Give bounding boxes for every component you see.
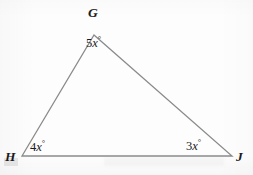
angle-measure-J: 3x°	[186, 138, 201, 153]
vertex-label-G: G	[88, 6, 98, 20]
vertex-label-H: H	[5, 150, 16, 164]
angle-G-degree-symbol: °	[98, 34, 101, 44]
angle-measure-G: 5x°	[86, 35, 101, 50]
angle-H-degree-symbol: °	[42, 138, 45, 148]
vertex-label-J: J	[236, 150, 243, 164]
angle-J-degree-symbol: °	[198, 137, 201, 147]
angle-measure-H: 4x°	[30, 139, 45, 154]
triangle-diagram-canvas: G H J 5x° 4x° 3x°	[0, 0, 253, 175]
